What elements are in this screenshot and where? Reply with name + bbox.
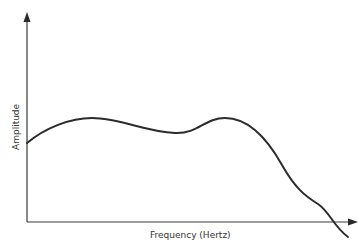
y-axis-label: Amplitude (11, 103, 21, 150)
x-axis-arrow-icon (348, 219, 358, 226)
frequency-response-chart: Amplitude Frequency (Hertz) (0, 0, 364, 246)
y-axis-arrow-icon (24, 12, 31, 22)
amplitude-curve (27, 118, 348, 237)
x-axis-label: Frequency (Hertz) (150, 230, 231, 240)
